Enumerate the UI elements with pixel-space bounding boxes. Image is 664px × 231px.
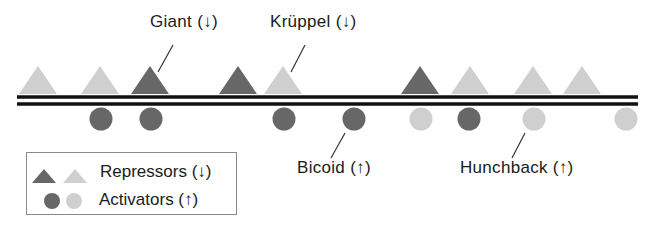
hunchback-name: Hunchback [460,158,548,177]
down-arrow-icon: ↓ [342,12,351,31]
dna-double-strand [17,97,638,104]
repressor-dark-triangle-icon [401,66,439,94]
kruppel-label: Krüppel (↓) [270,12,356,32]
repressor-triangles [19,66,601,94]
repressor-dark-triangle-icon [219,66,257,94]
repressor-light-triangle-icon [264,66,302,94]
giant-name: Giant [150,12,192,31]
legend-box: Repressors (↓) Activators (↑) [26,152,237,215]
activator-dark-circle-icon [90,108,113,131]
repressor-light-triangle-icon [514,66,552,94]
legend-repressors-label: Repressors [100,162,187,181]
legend-activators-label: Activators [99,190,174,209]
giant-label: Giant (↓) [150,12,218,32]
legend-activators: Activators (↑) [99,190,198,210]
activator-circles [90,108,638,131]
leader-line [512,133,525,158]
hunchback-label: Hunchback (↑) [460,158,574,178]
activator-dark-circle-icon [458,108,481,131]
kruppel-name: Krüppel [270,12,331,31]
activator-dark-circle-icon [343,108,366,131]
down-arrow-icon: ↓ [203,12,212,31]
repressor-light-triangle-icon [563,66,601,94]
leader-line [158,45,173,72]
activator-light-circle-icon [410,108,433,131]
activator-dark-circle-icon [273,108,296,131]
down-arrow-icon: ↓ [197,162,206,181]
legend-repressors: Repressors (↓) [100,162,211,182]
repressor-light-triangle-icon [19,66,57,94]
leader-line [291,45,305,72]
up-arrow-icon: ↑ [559,158,568,177]
repressor-light-triangle-icon [451,66,489,94]
repressor-light-triangle-icon [81,66,119,94]
bicoid-name: Bicoid [297,158,345,177]
activator-light-circle-icon [523,108,546,131]
label-leader-lines [158,45,525,158]
activator-light-circle-icon [615,108,638,131]
leader-line [331,133,345,158]
activator-dark-circle-icon [140,108,163,131]
up-arrow-icon: ↑ [356,158,365,177]
up-arrow-icon: ↑ [184,190,193,209]
bicoid-label: Bicoid (↑) [297,158,371,178]
repressor-dark-triangle-icon [131,66,169,94]
